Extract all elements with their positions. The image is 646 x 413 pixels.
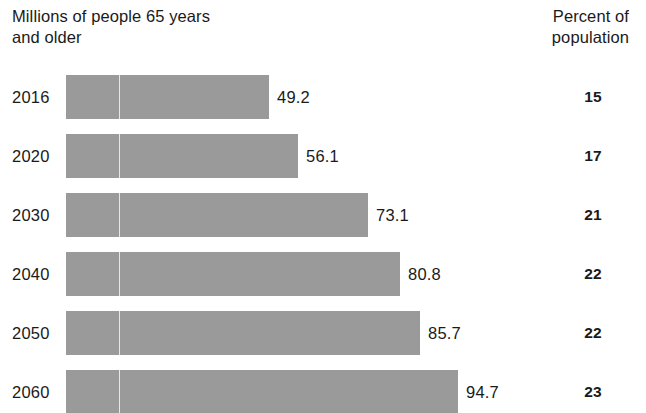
percent-label-2020: 17 [563, 148, 623, 164]
gridline [119, 134, 120, 178]
chart-row: 202056.117 [0, 134, 646, 178]
bar-2016 [66, 75, 269, 119]
value-label-2060: 94.7 [466, 384, 499, 401]
chart-row: 205085.722 [0, 311, 646, 355]
category-label-2040: 2040 [12, 266, 60, 283]
value-label-2030: 73.1 [376, 207, 409, 224]
value-label-2040: 80.8 [408, 266, 441, 283]
bar-2020 [66, 134, 298, 178]
category-label-2060: 2060 [12, 384, 60, 401]
value-label-2020: 56.1 [306, 148, 339, 165]
bar-chart: Millions of people 65 years and older Pe… [0, 0, 646, 413]
category-label-2020: 2020 [12, 148, 60, 165]
chart-row: 206094.723 [0, 370, 646, 413]
bar-2040 [66, 252, 400, 296]
value-label-2050: 85.7 [428, 325, 461, 342]
plot-area: 201649.215202056.117203073.121204080.822… [0, 0, 646, 413]
gridline [119, 193, 120, 237]
value-label-2016: 49.2 [277, 89, 310, 106]
gridline [119, 252, 120, 296]
percent-label-2050: 22 [563, 325, 623, 341]
category-label-2050: 2050 [12, 325, 60, 342]
percent-label-2030: 21 [563, 207, 623, 223]
percent-label-2016: 15 [563, 89, 623, 105]
gridline [119, 311, 120, 355]
gridline [119, 75, 120, 119]
category-label-2016: 2016 [12, 89, 60, 106]
chart-row: 203073.121 [0, 193, 646, 237]
percent-label-2040: 22 [563, 266, 623, 282]
category-label-2030: 2030 [12, 207, 60, 224]
chart-row: 204080.822 [0, 252, 646, 296]
chart-row: 201649.215 [0, 75, 646, 119]
gridline [119, 370, 120, 413]
percent-label-2060: 23 [563, 384, 623, 400]
bar-2030 [66, 193, 368, 237]
bar-2060 [66, 370, 458, 413]
